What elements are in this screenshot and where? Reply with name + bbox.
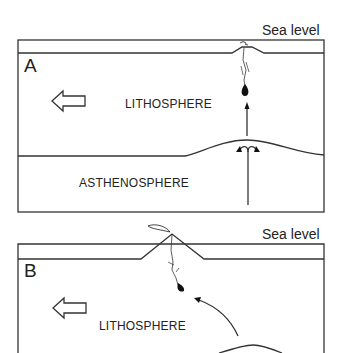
- panel-b-sea-level-label: Sea level: [262, 226, 320, 242]
- panel-b-eruption-cloud-icon: [148, 225, 170, 232]
- panel-b-plate-motion-arrow-icon: [53, 298, 86, 318]
- panel-a-vent-icon: [240, 42, 248, 46]
- panel-b-dike-icon: [171, 235, 178, 285]
- panel-b-plume-bump: [219, 345, 282, 353]
- panel-a-lab-boundary: [18, 140, 324, 156]
- panel-a-seafloor: [18, 47, 324, 53]
- panel-b-curved-arrow-icon: [199, 300, 238, 336]
- panel-a-dike-icon: [243, 48, 246, 86]
- panel-a-magma-drop-icon: [242, 84, 249, 96]
- panel-b-lithosphere-label: LITHOSPHERE: [99, 319, 186, 333]
- panel-a-lithosphere-label: LITHOSPHERE: [125, 97, 212, 111]
- panel-b: [18, 225, 324, 353]
- panel-a-label: A: [24, 55, 37, 77]
- panel-a-sea-level-label: Sea level: [262, 22, 320, 38]
- panel-a-asthenosphere-label: ASTHENOSPHERE: [79, 176, 189, 190]
- panel-b-magma-drop-icon: [177, 283, 184, 292]
- panel-b-label: B: [24, 260, 37, 282]
- panel-a-plate-motion-arrow-icon: [52, 91, 85, 111]
